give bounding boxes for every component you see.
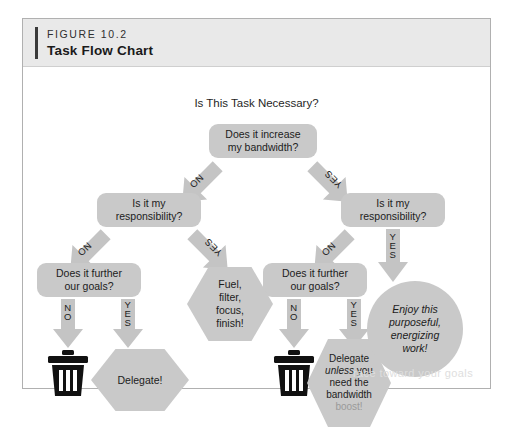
arrow-no-q3-right: NO (279, 299, 309, 349)
node-line-2: filter, (216, 291, 244, 304)
flowchart-canvas: Is This Task Necessary? Does it increase… (23, 67, 490, 388)
arrow-yes-q2-right: YES (378, 229, 408, 283)
node-line-4: work! (389, 342, 441, 355)
trash-can-icon-left (45, 349, 91, 401)
flowchart-heading: Is This Task Necessary? (23, 97, 490, 109)
header-accent-rule (35, 27, 38, 59)
node-line-1: Delegate (325, 353, 373, 365)
node-line-1: Does it increase (225, 128, 300, 141)
arrow-label-yes: YES (388, 232, 398, 259)
node-line-4: finish! (216, 317, 244, 330)
node-line-1: Fuel, (216, 278, 244, 291)
node-line-2: our goals? (282, 280, 348, 293)
node-line-2: purposeful, (389, 316, 441, 329)
node-line-3: energizing (389, 329, 441, 342)
node-line-2: my bandwidth? (225, 141, 300, 154)
node-line-4: bandwidth (325, 389, 373, 401)
figure-number: FIGURE 10.2 (47, 28, 128, 40)
node-line-1: Is it my (116, 197, 183, 210)
page-bleed-through-text: race toward your goals (353, 367, 473, 379)
node-line-2: responsibility? (360, 210, 427, 223)
node-does-it-further-goals-right: Does it further our goals? (263, 263, 367, 297)
arrow-no-q3-left: NO (53, 299, 83, 349)
node-is-it-my-responsibility-right: Is it my responsibility? (341, 193, 445, 227)
node-enjoy-purposeful-energizing-work: Enjoy this purposeful, energizing work! (367, 281, 463, 377)
arrow-label-no: NO (289, 303, 299, 321)
figure-frame: FIGURE 10.2 Task Flow Chart Is This Task… (22, 18, 491, 389)
node-label: Delegate! (118, 374, 163, 387)
node-delegate: Delegate! (91, 349, 189, 411)
arrow-label-yes: YES (349, 300, 359, 327)
node-line-2-emphasis: unless (325, 365, 354, 376)
trash-can-icon-middle (271, 349, 317, 401)
node-line-5: boost! (325, 401, 373, 413)
arrow-yes-q3-left: YES (113, 299, 143, 349)
arrow-label-no: NO (63, 303, 73, 321)
node-line-2: our goals? (56, 280, 122, 293)
node-line-1: Is it my (360, 197, 427, 210)
node-does-it-increase-bandwidth: Does it increase my bandwidth? (209, 124, 317, 158)
node-is-it-my-responsibility-left: Is it my responsibility? (97, 193, 201, 227)
figure-header: FIGURE 10.2 Task Flow Chart (23, 19, 490, 67)
node-line-3: focus, (216, 304, 244, 317)
node-line-2: responsibility? (116, 210, 183, 223)
node-line-1: Does it further (282, 267, 348, 280)
arrow-label-yes: YES (123, 300, 133, 327)
node-line-1: Enjoy this (389, 303, 441, 316)
figure-title: Task Flow Chart (47, 43, 153, 58)
node-line-1: Does it further (56, 267, 122, 280)
node-does-it-further-goals-left: Does it further our goals? (37, 263, 141, 297)
